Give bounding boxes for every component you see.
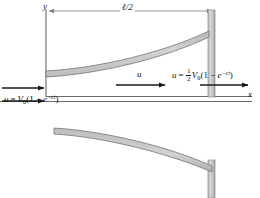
outlet-eq-close: ) [230,70,233,80]
inlet-eq-exponent: −ct [47,94,55,100]
mid-velocity-label: u [137,70,142,79]
outlet-eq-lhs: u [172,70,177,80]
outlet-eq-equals: = [179,70,184,80]
outlet-eq-fraction: 12 [186,68,191,83]
outlet-eq-open: (1 − [200,70,217,80]
upper-right-wall [208,10,215,97]
outlet-eq-fraction-denominator: 2 [186,75,191,83]
y-axis-label: y [43,2,47,11]
inlet-eq-close: ) [56,94,59,104]
inlet-eq-lhs: u [4,94,9,104]
x-axis-label: x [248,90,252,99]
length-dimension-label: ℓ/2 [120,3,135,12]
outlet-eq-fraction-numerator: 1 [186,68,191,75]
outlet-eq-exponent: −ct [221,70,229,76]
outlet-velocity-equation: u=12V0(1 − e−ct) [172,68,233,83]
velocity-profile-figure: y x ℓ/2 u u=V0(1 − e−ct) u=12V0(1 − e−ct… [0,0,260,198]
inlet-eq-open: (1 − [26,94,43,104]
inlet-eq-equals: = [11,94,16,104]
inlet-velocity-equation: u=V0(1 − e−ct) [4,95,59,105]
lower-velocity-profile-band [54,128,212,172]
